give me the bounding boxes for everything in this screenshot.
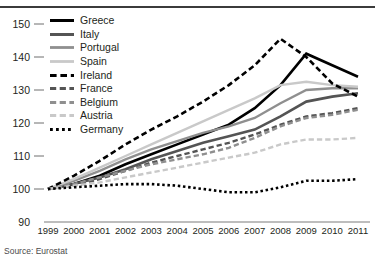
legend-item-austria[interactable]: Austria [49,109,123,123]
legend-swatch-greece-icon [49,15,75,26]
y-tick-label: 100 [12,183,30,195]
legend-item-greece[interactable]: Greece [49,14,123,28]
x-tick-label: 2002 [115,225,136,235]
chart-legend: GreeceItalyPortugalSpainIrelandFranceBel… [49,14,123,136]
x-tick-label: 2000 [63,225,84,235]
x-tick-label: 2003 [141,225,162,235]
x-tick-label: 2009 [296,225,317,235]
x-tick-label: 2005 [192,225,213,235]
x-tick-label: 2008 [270,225,291,235]
x-tick-label: 2006 [218,225,239,235]
legend-item-portugal[interactable]: Portugal [49,41,123,55]
x-tick-label: 2004 [167,225,188,235]
x-tick-label: 1999 [37,225,58,235]
legend-swatch-italy-icon [49,29,75,40]
x-tick-label: 2007 [244,225,265,235]
y-tick-label: 120 [12,117,30,129]
x-tick-label: 2010 [322,225,343,235]
series-line-germany [48,179,358,192]
legend-item-germany[interactable]: Germany [49,123,123,137]
legend-label: Belgium [80,97,118,108]
legend-label: Portugal [80,42,119,53]
legend-swatch-spain-icon [49,56,75,67]
x-tick-label: 2001 [89,225,110,235]
legend-swatch-france-icon [49,83,75,94]
legend-label: France [80,83,113,94]
y-axis-ticks: 15014013012011010090 [12,18,44,228]
top-divider-rule [0,6,375,8]
legend-item-ireland[interactable]: Ireland [49,68,123,82]
y-tick-label: 150 [12,18,30,30]
y-tick-label: 140 [12,51,30,63]
legend-item-belgium[interactable]: Belgium [49,96,123,110]
y-tick-label: 110 [13,150,30,162]
legend-item-spain[interactable]: Spain [49,55,123,69]
y-tick-label: 90 [18,216,30,228]
source-note: Source: Eurostat [4,246,67,256]
legend-label: Ireland [80,70,112,81]
x-axis-ticks: 1999200020012002200320042005200620072008… [37,225,368,235]
y-tick-label: 130 [12,84,30,96]
legend-swatch-germany-icon [49,124,75,135]
legend-label: Austria [80,110,113,121]
legend-swatch-ireland-icon [49,70,75,81]
legend-swatch-portugal-icon [49,42,75,53]
legend-label: Italy [80,29,99,40]
legend-item-italy[interactable]: Italy [49,28,123,42]
legend-item-france[interactable]: France [49,82,123,96]
legend-label: Spain [80,56,107,67]
legend-label: Greece [80,15,114,26]
legend-swatch-belgium-icon [49,97,75,108]
legend-swatch-austria-icon [49,110,75,121]
x-tick-label: 2011 [348,225,368,235]
legend-label: Germany [80,124,123,135]
